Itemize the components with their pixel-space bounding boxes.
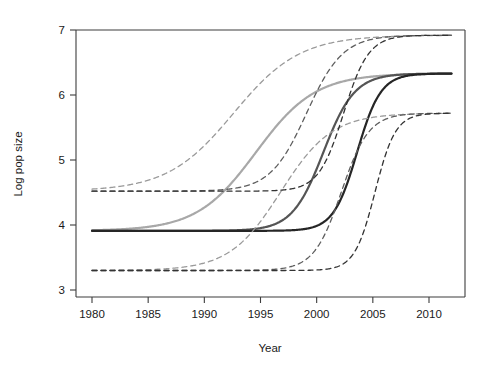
y-axis-ticks: 34567 [59,24,76,296]
x-axis-title: Year [258,342,281,354]
x-tick-label: 1980 [79,308,105,320]
curve-logistic-fit-3 [92,74,451,231]
x-tick-label: 2005 [360,308,386,320]
y-tick-label: 7 [59,24,65,36]
curve-series-group [92,35,451,270]
y-tick-label: 6 [59,89,65,101]
curve-band-1-upper [92,35,451,189]
x-tick-label: 1985 [135,308,161,320]
curve-band-2-upper [92,35,451,191]
x-tick-label: 1995 [248,308,274,320]
chart-figure: 34567 1980198519901995200020052010 Year … [0,0,481,377]
x-tick-label: 2000 [304,308,330,320]
x-tick-label: 1990 [192,308,218,320]
axes-group: 34567 1980198519901995200020052010 [59,24,465,320]
x-tick-label: 2010 [416,308,442,320]
curve-band-3-upper [92,35,451,191]
logistic-growth-chart: 34567 1980198519901995200020052010 Year … [0,0,481,377]
curve-band-3-lower [92,113,451,270]
y-axis-title: Log pop size [12,131,24,196]
y-tick-label: 4 [59,219,66,231]
y-tick-label: 5 [59,154,65,166]
curve-logistic-fit-1 [92,74,451,230]
x-axis-ticks: 1980198519901995200020052010 [79,297,442,320]
y-tick-label: 3 [59,284,65,296]
curve-band-2-lower [92,113,451,270]
curve-logistic-fit-2 [92,74,451,231]
curve-band-1-lower [92,113,451,270]
